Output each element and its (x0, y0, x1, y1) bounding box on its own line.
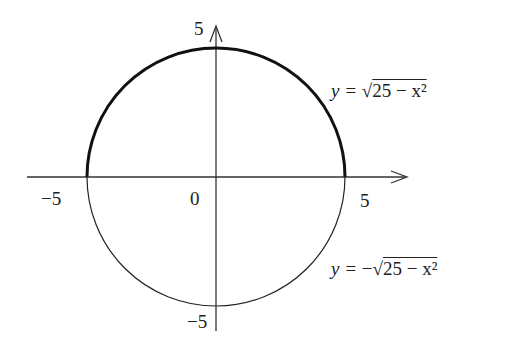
y-tick-5: 5 (194, 18, 204, 40)
circle-diagram (0, 0, 516, 340)
x-tick-neg5: −5 (41, 188, 61, 210)
lower-curve-equation: y = −√25 − x² (331, 258, 437, 280)
upper-curve-equation: y = √25 − x² (331, 80, 427, 102)
x-tick-5: 5 (360, 190, 370, 212)
upper-eq-lhs: y = (331, 80, 362, 101)
lower-eq-sign: − (362, 258, 373, 279)
lower-eq-radicand: 25 − x² (383, 258, 437, 279)
upper-eq-radicand: 25 − x² (372, 80, 426, 101)
lower-eq-lhs: y = (331, 258, 362, 279)
origin-label: 0 (190, 188, 200, 210)
y-tick-neg5: −5 (187, 311, 207, 333)
